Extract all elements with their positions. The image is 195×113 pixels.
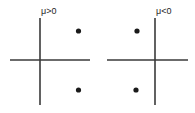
- eigenvalue-diagram: μ>0 μ<0: [0, 0, 195, 113]
- panel-left: [10, 18, 90, 105]
- right-eigenvalue-dot-lower: [133, 87, 138, 92]
- right-eigenvalue-dot-upper: [134, 28, 139, 33]
- diagram-canvas: [0, 0, 195, 113]
- panel-right-label: μ<0: [156, 6, 171, 16]
- left-eigenvalue-dot-upper: [76, 28, 81, 33]
- panel-right: [107, 18, 188, 105]
- panel-left-label: μ>0: [41, 6, 56, 16]
- left-eigenvalue-dot-lower: [76, 87, 81, 92]
